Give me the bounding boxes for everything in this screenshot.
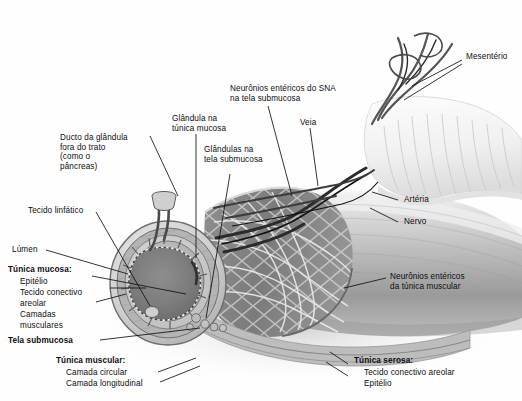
label-arteria: Artéria [404, 195, 429, 205]
label-ducto-glandula: Ducto da glândula fora do trato (como o … [60, 133, 128, 171]
label-areolar: areolar [20, 299, 46, 309]
anatomy-illustration [0, 0, 522, 401]
label-lumen: Lúmen [12, 245, 38, 255]
label-nervo: Nervo [404, 217, 426, 227]
label-tecido-conectivo: Tecido conectivo [20, 288, 82, 298]
label-neuronios-muscular: Neurônios entéricos da túnica muscular [390, 272, 465, 291]
label-glandula-mucosa: Glândula na túnica mucosa [172, 114, 226, 133]
label-neuronios-submucosa: Neurônios entéricos do SNA na tela submu… [230, 84, 336, 103]
lymphatic-nodule [145, 307, 159, 318]
duct-opening [152, 192, 176, 211]
label-tunica-serosa: Túnica serosa: [354, 356, 413, 366]
label-serosa-tecido: Tecido conectivo areolar [364, 368, 455, 378]
label-camada-circular: Camada circular [66, 368, 127, 378]
label-serosa-epitelio: Epitélio [364, 379, 392, 389]
label-camada-longitudinal: Camada longitudinal [66, 379, 143, 389]
label-musculares: musculares [20, 321, 63, 331]
figure-canvas: Mesentério Neurônios entéricos do SNA na… [0, 0, 522, 401]
label-mesenterio: Mesentério [466, 52, 508, 62]
label-glandulas-submucosa: Glândulas na tela submucosa [204, 145, 263, 164]
label-tela-submucosa: Tela submucosa [8, 336, 73, 346]
label-tecido-linfatico: Tecido linfático [28, 206, 83, 216]
label-epitelio-mucosa: Epitélio [20, 277, 48, 287]
label-tunica-mucosa: Túnica mucosa: [8, 265, 72, 275]
label-tunica-muscular: Túnica muscular: [56, 356, 125, 366]
label-veia: Veia [300, 118, 316, 128]
label-camadas: Camadas [20, 310, 56, 320]
